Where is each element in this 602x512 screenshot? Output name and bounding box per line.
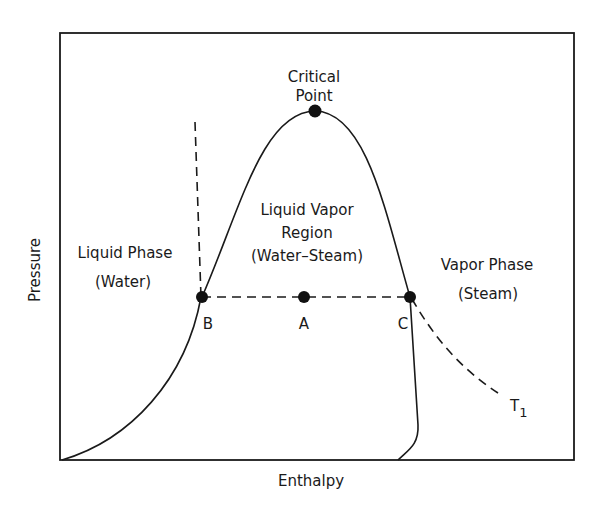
liquid-phase-label-line1: Liquid Phase — [78, 244, 173, 262]
critical-point-label-line2: Point — [295, 87, 332, 105]
vapor-phase-label-line2: (Steam) — [458, 285, 518, 303]
critical-point-label-line1: Critical — [288, 68, 340, 86]
x-axis-label: Enthalpy — [278, 472, 344, 490]
isotherm-subscript: 1 — [519, 405, 527, 420]
saturated-liquid-curve-lower — [62, 297, 201, 460]
isotherm-t1-label: T1 — [509, 397, 527, 420]
vapor-phase-label-line1: Vapor Phase — [441, 256, 534, 274]
point-b-label: B — [203, 315, 213, 333]
pressure-enthalpy-diagram: Critical Point Liquid Vapor Region (Wate… — [0, 0, 602, 512]
point-a-label: A — [299, 315, 310, 333]
critical-point-marker — [309, 105, 322, 118]
y-axis-label: Pressure — [26, 238, 44, 302]
region-label-line1: Liquid Vapor — [260, 201, 354, 219]
isotherm-vapor-dashed — [412, 299, 498, 393]
point-c-marker — [404, 291, 416, 303]
liquid-phase-label-line2: (Water) — [95, 273, 151, 291]
region-label-line2: Region — [281, 224, 332, 242]
point-a-marker — [298, 291, 310, 303]
region-label-line3: (Water–Steam) — [251, 247, 363, 265]
point-c-label: C — [398, 315, 408, 333]
point-b-marker — [196, 291, 208, 303]
isotherm-liquid-dashed — [195, 122, 201, 297]
